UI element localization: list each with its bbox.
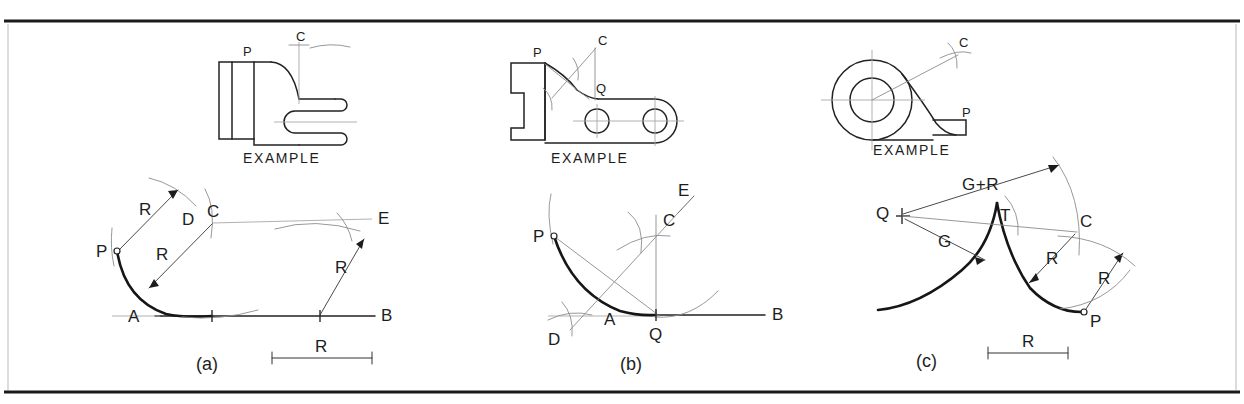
panel-b-construction-drawing: P E C A Q D B (b): [533, 181, 784, 374]
panel-b-label-D: D: [548, 330, 561, 349]
panel-a-dim-R-upper-label: R: [139, 200, 152, 219]
panel-c-scale-bar: R: [988, 332, 1068, 359]
example-b-label: EXAMPLE: [551, 150, 628, 166]
example-a-arm-bottom: [254, 139, 299, 145]
panel-c-dim-GplusR-label: G+R: [962, 175, 999, 194]
panel-b: P C Q EXAMPLE: [511, 33, 784, 374]
example-b-fillet-curve: [545, 63, 598, 99]
example-a-label-P: P: [243, 44, 252, 59]
panel-b-arc-cross-at-C-1: [628, 212, 642, 253]
example-b-arc-cross-upper: [573, 58, 578, 80]
panel-a-scale-bar: R: [272, 337, 372, 364]
panel-a-label-P: P: [96, 242, 108, 261]
panel-c-label-P: P: [1090, 312, 1102, 331]
example-a-fillet-curve: [271, 62, 299, 99]
panel-c-dim-R-left: R: [1029, 234, 1075, 283]
panel-a-dim-R-middle-arrow: [149, 279, 159, 288]
panel-b-label-A: A: [604, 310, 616, 329]
panel-a-point-P-marker: [114, 248, 120, 254]
page-frame: [4, 21, 1240, 392]
panel-c-label-C: C: [1080, 212, 1093, 231]
panel-c-swing-arc-R-2: [1060, 270, 1130, 309]
panel-b-point-P-marker: [551, 233, 557, 239]
example-a-label-C: C: [296, 29, 306, 44]
panel-a-label-E: E: [378, 209, 390, 228]
panel-a-dim-R-upper-leader: [120, 190, 178, 249]
panel-c-dim-R-left-label: R: [1046, 249, 1059, 268]
panel-a-label-D: D: [182, 210, 195, 229]
panel-a-dim-R-right-label: R: [335, 258, 348, 277]
panel-a-label-C: C: [207, 202, 220, 221]
panel-a-label-B: B: [381, 306, 393, 325]
panel-c-example-drawing: C P EXAMPLE: [821, 35, 971, 158]
panel-b-label-P: P: [533, 227, 545, 246]
figure-page: P C EXAMPLE: [0, 0, 1244, 404]
panel-a-dim-R-upper-arrow: [168, 190, 178, 199]
panel-a-caption: (a): [196, 354, 218, 374]
panel-b-arc-cross-at-C-2: [617, 235, 670, 250]
panel-a-dim-R-upper: R: [120, 190, 178, 249]
panel-c-scale-bar-label: R: [1022, 332, 1035, 351]
panel-a-scale-bar-label: R: [315, 337, 328, 356]
example-c-arc-cross-at-C: [948, 43, 957, 68]
panel-c-dim-GplusR-arrow: [1048, 165, 1059, 173]
panel-a-dim-R-middle: R: [149, 224, 212, 288]
panel-a-construction-drawing: R R R P C D E A B: [96, 178, 393, 374]
panel-b-tangent-trace-right: [655, 291, 718, 317]
panel-c-dim-R-right-arrow: [1114, 253, 1123, 263]
panel-b-arc-cross-at-D-1: [562, 302, 572, 336]
example-c-tangent-web: [902, 74, 956, 135]
panel-a-swing-arc-through-P: [111, 228, 114, 266]
panel-b-label-E: E: [678, 181, 690, 200]
panel-b-example-drawing: P C Q EXAMPLE: [511, 33, 684, 166]
panel-c-dim-G-label: G: [938, 232, 952, 251]
panel-a-dim-R-right-arrow: [356, 239, 364, 249]
panel-c-label-T: T: [1000, 206, 1011, 225]
panel-b-label-B: B: [772, 305, 784, 324]
example-c-label-C: C: [959, 35, 969, 50]
panel-c-construction-drawing: G+R G R R: [876, 157, 1135, 371]
panel-c-dim-GplusR: G+R: [903, 165, 1059, 214]
panel-a-dim-R-middle-label: R: [156, 245, 169, 264]
example-b-construction-line-to-C: [552, 48, 596, 98]
example-b-label-Q: Q: [596, 81, 607, 96]
panel-b-caption: (b): [620, 354, 642, 374]
panel-a-label-A: A: [128, 307, 140, 326]
example-a-arc-swing-right: [310, 45, 350, 48]
panel-c-dim-R-right-label: R: [1098, 269, 1111, 288]
example-b-upright-outline: [511, 63, 545, 140]
example-c-label-P: P: [962, 105, 971, 120]
panel-a-dim-R-right-leader: [320, 239, 364, 315]
technical-drawing-figure: P C EXAMPLE: [0, 0, 1244, 404]
panel-c: C P EXAMPLE G+R G: [821, 35, 1135, 371]
panel-a-line-CE: [212, 219, 372, 223]
panel-b-label-Q: Q: [649, 325, 663, 344]
example-b-label-P: P: [533, 45, 542, 60]
example-a-body-outline: [219, 62, 254, 139]
panel-c-dim-G-arrow: [975, 257, 985, 265]
example-a-label: EXAMPLE: [243, 150, 320, 166]
example-c-label: EXAMPLE: [873, 142, 950, 158]
panel-c-caption: (c): [916, 351, 937, 371]
panel-a-dim-R-right: R: [320, 239, 364, 315]
example-b-label-C: C: [598, 33, 608, 48]
panel-a: P C EXAMPLE: [96, 29, 393, 374]
panel-c-swing-arc-GplusR: [1053, 157, 1079, 255]
panel-c-label-Q: Q: [876, 204, 890, 223]
panel-b-label-C: C: [663, 211, 676, 230]
panel-a-example-drawing: P C EXAMPLE: [219, 29, 357, 166]
panel-c-point-P-marker: [1081, 309, 1087, 315]
